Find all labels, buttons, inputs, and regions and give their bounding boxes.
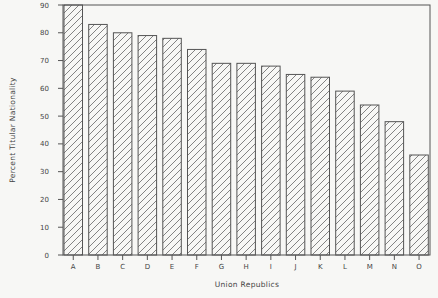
y-axis: 0102030405060708090 (40, 2, 63, 260)
x-tick-label: J (294, 263, 297, 271)
x-tick-label: F (195, 263, 199, 271)
y-tick-label: 10 (40, 224, 49, 232)
y-tick-label: 0 (45, 252, 49, 260)
bar-n (385, 122, 404, 255)
bar-j (286, 74, 305, 255)
y-tick-label: 60 (40, 85, 49, 93)
x-tick-label: N (392, 263, 397, 271)
x-axis-title: Union Republics (215, 280, 280, 289)
x-axis: ABCDEFGHIJKLMNO (71, 255, 422, 271)
bar-i (262, 66, 281, 255)
x-tick-label: L (343, 263, 347, 271)
bar-d (138, 36, 157, 255)
bars (64, 5, 428, 255)
x-tick-label: K (318, 263, 323, 271)
x-tick-label: M (367, 263, 373, 271)
bar-h (237, 63, 256, 255)
x-tick-label: I (270, 263, 272, 271)
bar-k (311, 77, 330, 255)
y-tick-label: 30 (40, 168, 49, 176)
bar-b (89, 24, 108, 255)
y-tick-label: 40 (40, 140, 49, 148)
x-tick-label: H (244, 263, 249, 271)
x-tick-label: C (120, 263, 125, 271)
x-tick-label: D (145, 263, 150, 271)
bar-chart: 0102030405060708090 ABCDEFGHIJKLMNO Unio… (0, 0, 438, 298)
x-tick-label: A (71, 263, 76, 271)
bar-o (410, 155, 429, 255)
y-tick-label: 70 (40, 57, 49, 65)
x-tick-label: G (219, 263, 224, 271)
bar-g (212, 63, 231, 255)
bar-a (64, 5, 83, 255)
x-tick-label: E (170, 263, 174, 271)
y-tick-label: 20 (40, 196, 49, 204)
bar-e (163, 38, 182, 255)
x-tick-label: B (96, 263, 101, 271)
x-tick-label: O (416, 263, 422, 271)
bar-f (188, 49, 207, 255)
y-tick-label: 90 (40, 2, 49, 10)
y-tick-label: 80 (40, 29, 49, 37)
y-tick-label: 50 (40, 113, 49, 121)
y-axis-title: Percent Titular Nationality (8, 77, 17, 183)
bar-l (336, 91, 355, 255)
bar-c (113, 33, 131, 255)
bar-m (360, 105, 379, 255)
